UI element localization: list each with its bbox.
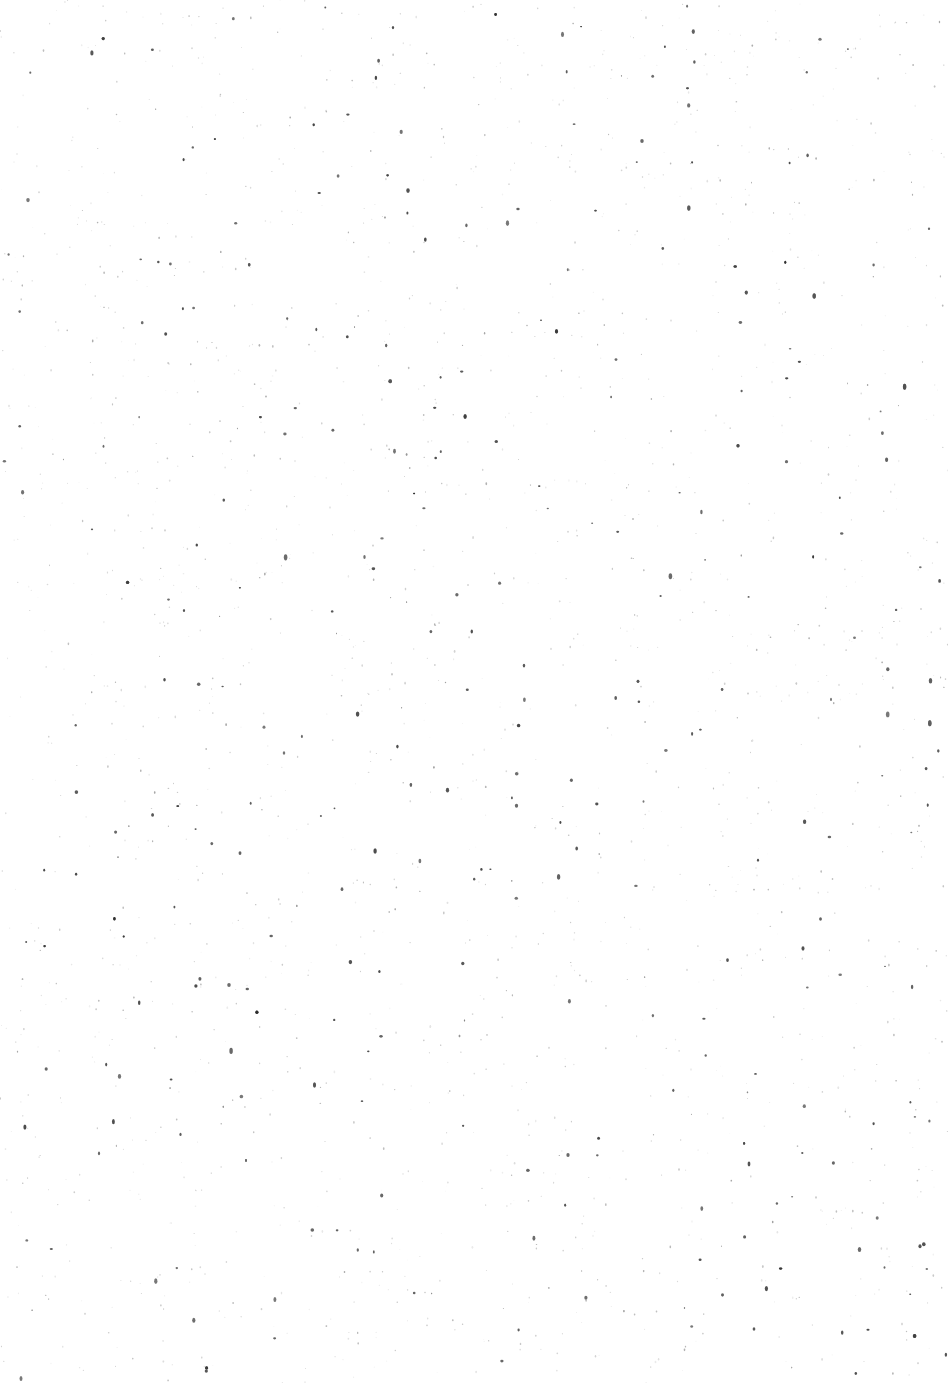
scan-noise-texture xyxy=(0,0,948,1383)
blank-scanned-page xyxy=(0,0,948,1383)
